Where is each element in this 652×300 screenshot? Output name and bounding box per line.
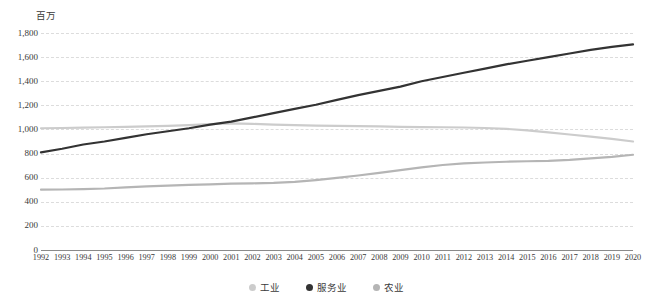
x-axis-tick-label: 2017 xyxy=(561,253,577,263)
x-axis-tick-label: 2003 xyxy=(265,253,281,263)
gridline xyxy=(41,202,633,203)
x-axis-tick-label: 2010 xyxy=(413,253,429,263)
y-axis-tick-label: 1,600 xyxy=(4,53,38,62)
y-axis-tick-label: 1,000 xyxy=(4,125,38,134)
x-axis-tick-label: 2009 xyxy=(392,253,408,263)
y-axis-tick-label: 600 xyxy=(4,173,38,182)
y-axis-tick-label: 1,800 xyxy=(4,29,38,38)
x-axis-tick-label: 2015 xyxy=(519,253,535,263)
y-axis-unit-label: 百万 xyxy=(36,8,56,22)
x-axis-tick-label: 2004 xyxy=(287,253,303,263)
gridline xyxy=(41,226,633,227)
chart-legend: 工业服务业农业 xyxy=(0,279,652,295)
y-axis-tick-label: 1,200 xyxy=(4,101,38,110)
line-chart: 百万 1,8001,6001,4001,2001,000800600400200… xyxy=(0,0,652,300)
legend-swatch-icon xyxy=(373,284,380,291)
legend-label: 农业 xyxy=(384,280,404,294)
x-axis-tick-label: 2018 xyxy=(583,253,599,263)
gridline xyxy=(41,33,633,34)
x-axis-tick-label: 1999 xyxy=(181,253,197,263)
x-axis-tick-label: 2002 xyxy=(244,253,260,263)
legend-item[interactable]: 服务业 xyxy=(306,280,347,294)
x-axis-tick-label: 2011 xyxy=(435,253,451,263)
gridline xyxy=(41,81,633,82)
x-axis-tick-label: 2006 xyxy=(329,253,345,263)
legend-item[interactable]: 工业 xyxy=(249,280,280,294)
x-axis-line xyxy=(41,250,633,251)
x-axis-tick-label: 2013 xyxy=(477,253,493,263)
y-axis-tick-label: 1,400 xyxy=(4,77,38,86)
gridline xyxy=(41,178,633,179)
legend-item[interactable]: 农业 xyxy=(373,280,404,294)
x-axis-tick-label: 1998 xyxy=(160,253,176,263)
x-axis-tick-label: 2000 xyxy=(202,253,218,263)
legend-swatch-icon xyxy=(249,284,256,291)
x-axis-tick-label: 2020 xyxy=(625,253,641,263)
x-axis-tick-label: 2005 xyxy=(308,253,324,263)
legend-swatch-icon xyxy=(306,284,313,291)
y-axis-tick-label: 400 xyxy=(4,197,38,206)
gridline xyxy=(41,57,633,58)
x-axis-tick-label: 2019 xyxy=(604,253,620,263)
legend-label: 服务业 xyxy=(317,280,347,294)
x-axis-tick-label: 2016 xyxy=(540,253,556,263)
x-axis-tick-label: 2001 xyxy=(223,253,239,263)
x-axis-tick-label: 1995 xyxy=(96,253,112,263)
gridline xyxy=(41,154,633,155)
gridline xyxy=(41,129,633,130)
y-axis-tick-label: 800 xyxy=(4,149,38,158)
x-axis-tick-label: 2007 xyxy=(350,253,366,263)
x-axis-tick-label: 1994 xyxy=(75,253,91,263)
plot-area xyxy=(41,33,633,250)
y-axis-tick-label: 200 xyxy=(4,221,38,230)
x-axis-tick-label: 2012 xyxy=(456,253,472,263)
x-axis-tick-label: 2014 xyxy=(498,253,514,263)
x-axis-tick-label: 1993 xyxy=(54,253,70,263)
x-axis: 1992199319941995199619971998199920002001… xyxy=(41,253,633,267)
x-axis-tick-label: 2008 xyxy=(371,253,387,263)
legend-label: 工业 xyxy=(260,280,280,294)
x-axis-tick-label: 1996 xyxy=(117,253,133,263)
x-axis-tick-label: 1992 xyxy=(33,253,49,263)
gridline xyxy=(41,105,633,106)
x-axis-tick-label: 1997 xyxy=(139,253,155,263)
